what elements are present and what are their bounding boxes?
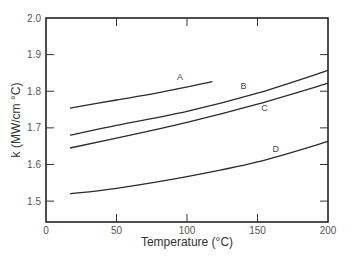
y-axis-title: k (MW/cm °C) [9, 83, 23, 158]
x-tick-label: 50 [111, 225, 123, 236]
conductivity-chart: 0501001502001.51.61.71.81.92.0 ABCD Temp… [0, 0, 352, 260]
x-axis-title: Temperature (°C) [141, 235, 233, 249]
curve-a [70, 82, 212, 108]
y-tick-label: 1.7 [27, 122, 41, 133]
data-curves [70, 70, 328, 193]
x-tick-label: 150 [249, 225, 266, 236]
curve-b [70, 70, 328, 135]
curve-c [70, 83, 328, 148]
curve-label-c: C [261, 103, 268, 113]
curve-label-b: B [240, 81, 246, 91]
y-tick-label: 1.5 [27, 196, 41, 207]
curve-label-d: D [273, 144, 280, 154]
x-tick-label: 200 [320, 225, 337, 236]
x-tick-label: 0 [43, 225, 49, 236]
curve-label-a: A [177, 72, 183, 82]
curve-labels: ABCD [177, 72, 280, 153]
y-tick-label: 1.8 [27, 86, 41, 97]
y-tick-label: 1.9 [27, 49, 41, 60]
y-tick-label: 2.0 [27, 13, 41, 24]
curve-d [70, 141, 328, 193]
y-tick-label: 1.6 [27, 159, 41, 170]
